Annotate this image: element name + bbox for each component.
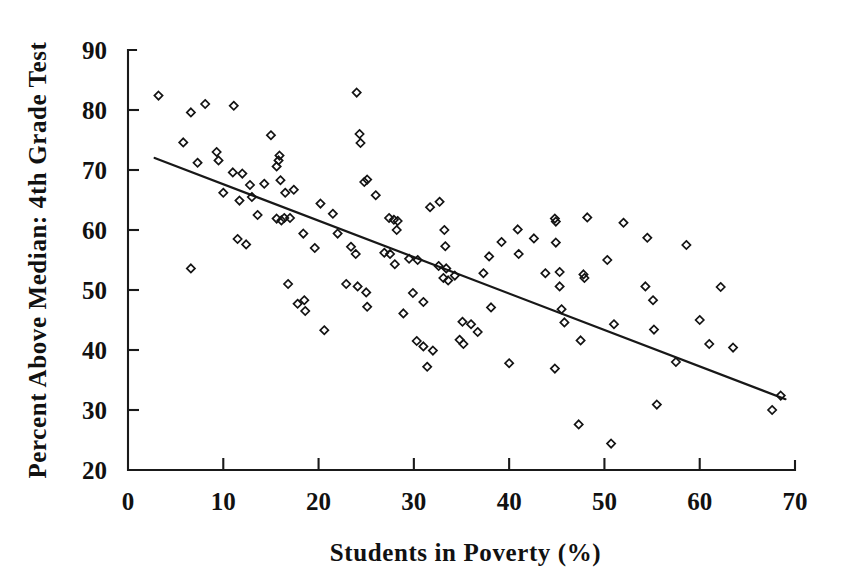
data-point-marker <box>577 336 585 344</box>
y-tick-label: 20 <box>82 457 107 484</box>
data-point-marker <box>187 108 195 116</box>
data-point-marker <box>560 318 568 326</box>
data-point-marker <box>541 269 549 277</box>
data-point-marker <box>238 170 246 178</box>
data-point-marker <box>393 226 401 234</box>
data-point-marker <box>276 176 284 184</box>
data-point-marker <box>583 213 591 221</box>
plot-axes <box>128 50 795 470</box>
data-point-marker <box>458 318 466 326</box>
data-point-marker <box>413 337 421 345</box>
data-point-marker <box>497 238 505 246</box>
x-tick-label: 0 <box>122 488 135 515</box>
x-tick-label: 30 <box>401 488 426 515</box>
x-tick-label: 60 <box>687 488 712 515</box>
data-point-marker <box>556 268 564 276</box>
data-point-marker <box>213 148 221 156</box>
data-point-marker <box>286 214 294 222</box>
data-point-marker <box>474 328 482 336</box>
data-point-marker <box>607 440 615 448</box>
data-point-marker <box>768 406 776 414</box>
data-point-marker <box>423 363 431 371</box>
data-point-marker <box>485 252 493 260</box>
data-point-marker <box>515 250 523 258</box>
data-point-marker <box>530 234 538 242</box>
data-point-marker <box>643 234 651 242</box>
data-point-marker <box>619 219 627 227</box>
data-point-marker <box>260 180 268 188</box>
data-point-marker <box>440 226 448 234</box>
data-point-marker <box>426 203 434 211</box>
data-point-marker <box>219 189 227 197</box>
data-point-marker <box>347 243 355 251</box>
data-point-marker <box>429 347 437 355</box>
data-point-marker <box>409 289 417 297</box>
data-point-marker <box>342 280 350 288</box>
data-point-marker <box>399 309 407 317</box>
data-point-marker <box>352 250 360 258</box>
scatter-plot-canvas: 2030405060708090010203040506070Students … <box>0 0 848 587</box>
data-point-marker <box>230 102 238 110</box>
data-point-marker <box>479 269 487 277</box>
data-point-marker <box>229 168 237 176</box>
data-point-marker <box>729 344 737 352</box>
y-tick-label: 50 <box>82 277 107 304</box>
data-point-marker <box>334 230 342 238</box>
y-tick-label: 80 <box>82 97 107 124</box>
x-tick-label: 50 <box>592 488 617 515</box>
data-point-marker <box>354 282 362 290</box>
data-point-marker <box>233 235 241 243</box>
data-point-marker <box>467 320 475 328</box>
data-point-marker <box>362 288 370 296</box>
data-point-marker <box>284 280 292 288</box>
data-point-marker <box>301 307 309 315</box>
data-point-marker <box>487 303 495 311</box>
data-point-marker <box>193 159 201 167</box>
data-point-marker <box>552 239 560 247</box>
data-point-marker <box>281 189 289 197</box>
data-point-marker <box>435 198 443 206</box>
data-point-marker <box>682 241 690 249</box>
data-point-marker <box>391 260 399 268</box>
data-point-marker <box>603 256 611 264</box>
data-point-marker <box>505 359 513 367</box>
data-point-marker <box>556 282 564 290</box>
data-point-marker <box>356 139 364 147</box>
x-tick-label: 20 <box>306 488 331 515</box>
data-point-marker <box>242 240 250 248</box>
x-tick-label: 70 <box>783 488 808 515</box>
data-point-marker <box>214 156 222 164</box>
data-point-marker <box>372 191 380 199</box>
data-point-marker <box>363 303 371 311</box>
x-tick-label: 10 <box>211 488 236 515</box>
data-point-marker <box>187 264 195 272</box>
data-point-marker <box>650 326 658 334</box>
data-point-marker <box>575 420 583 428</box>
x-axis-title: Students in Poverty (%) <box>330 539 601 567</box>
data-point-marker <box>154 92 162 100</box>
data-point-marker <box>267 131 275 139</box>
data-point-marker <box>514 225 522 233</box>
data-point-marker <box>705 340 713 348</box>
data-point-marker <box>253 211 261 219</box>
data-point-marker <box>419 342 427 350</box>
data-point-marker <box>696 316 704 324</box>
data-point-marker <box>355 130 363 138</box>
data-point-marker <box>299 230 307 238</box>
data-point-marker <box>179 138 187 146</box>
data-point-marker <box>653 401 661 409</box>
chart-figure: 2030405060708090010203040506070Students … <box>0 0 848 587</box>
data-point-marker <box>649 296 657 304</box>
data-point-marker <box>419 298 427 306</box>
y-tick-label: 30 <box>82 397 107 424</box>
data-point-marker <box>201 100 209 108</box>
y-tick-label: 60 <box>82 217 107 244</box>
data-point-marker <box>290 186 298 194</box>
y-tick-label: 40 <box>82 337 107 364</box>
data-point-marker <box>246 181 254 189</box>
data-point-marker <box>316 200 324 208</box>
y-tick-label: 90 <box>82 37 107 64</box>
data-point-marker <box>717 283 725 291</box>
y-tick-label: 70 <box>82 157 107 184</box>
y-axis-title: Percent Above Median: 4th Grade Test <box>24 41 51 478</box>
